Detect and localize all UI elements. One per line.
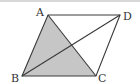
shaded-triangle-abc [22,15,96,76]
vertex-label-d: D [123,10,132,23]
vertex-label-a: A [35,6,45,19]
vertex-label-b: B [11,72,19,83]
parallelogram-diagram: A D B C [0,0,140,83]
vertex-label-c: C [98,72,106,83]
